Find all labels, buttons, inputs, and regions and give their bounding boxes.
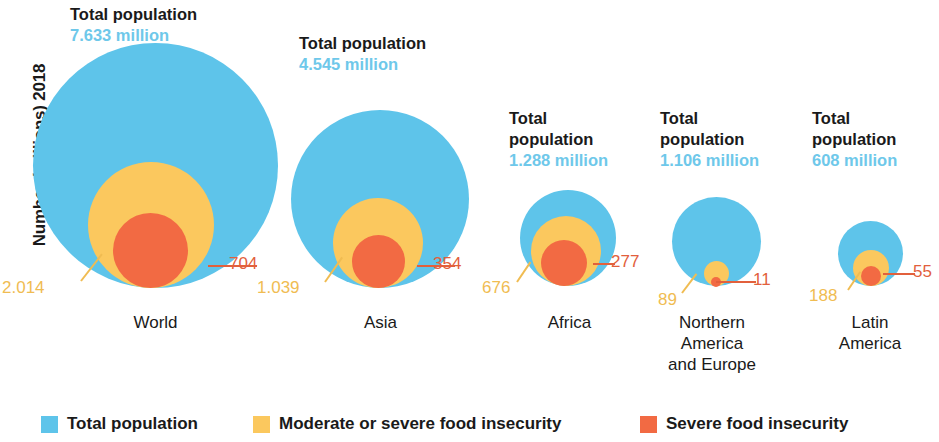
bubbles-africa	[520, 190, 620, 286]
total-population-caption: Total population	[509, 108, 619, 150]
callout-moderate-or-severe: 676	[482, 278, 510, 298]
total-population-value: 1.288 million	[509, 150, 619, 171]
bubbles-world	[33, 43, 283, 288]
bubble-severe[interactable]	[861, 266, 881, 286]
legend-label: Moderate or severe food insecurity	[279, 414, 561, 434]
bubble-chart-figure: Number (millions) 2018 Total population …	[0, 0, 939, 442]
leader-line-severe	[716, 281, 756, 283]
callout-severe: 704	[229, 254, 257, 274]
total-population-value: 1.106 million	[660, 150, 770, 171]
legend-label: Severe food insecurity	[666, 414, 848, 434]
legend-swatch-icon	[41, 416, 58, 433]
bubble-severe[interactable]	[541, 240, 587, 286]
legend-item-severe[interactable]: Severe food insecurity	[640, 414, 848, 434]
bubbles-latin-america	[838, 221, 918, 286]
legend-label: Total population	[67, 414, 198, 434]
group-header-africa: Total population 1.288 million	[509, 108, 619, 171]
category-label-world: World	[88, 312, 223, 333]
bubble-group-world: Total population 7.633 million 704 2.014…	[33, 0, 283, 400]
total-population-value: 608 million	[812, 150, 922, 171]
category-label-latin-america: Latin America	[814, 312, 926, 354]
callout-moderate-or-severe: 188	[809, 286, 837, 306]
callout-severe: 11	[753, 270, 771, 290]
total-population-caption: Total population	[660, 108, 770, 150]
group-header-latin-america: Total population 608 million	[812, 108, 922, 171]
legend-swatch-icon	[640, 416, 657, 433]
group-header-asia: Total population 4.545 million	[299, 33, 426, 75]
bubble-severe[interactable]	[352, 235, 405, 288]
category-label-northern-america-and-europe: Northern America and Europe	[656, 312, 768, 375]
group-header-world: Total population 7.633 million	[70, 4, 197, 46]
bubble-severe[interactable]	[113, 213, 188, 288]
total-population-caption: Total population	[70, 4, 197, 25]
total-population-value: 4.545 million	[299, 54, 426, 75]
callout-severe: 354	[433, 254, 461, 274]
total-population-caption: Total population	[299, 33, 426, 54]
category-label-africa: Africa	[502, 312, 637, 333]
bubble-group-northern-america-and-europe: Total population 1.106 million 11 89 Nor…	[660, 0, 785, 400]
bubble-group-latin-america: Total population 608 million 55 188 Lati…	[812, 0, 939, 400]
legend-item-total-population[interactable]: Total population	[41, 414, 198, 434]
legend: Total population Moderate or severe food…	[0, 408, 939, 442]
callout-severe: 277	[611, 252, 639, 272]
legend-item-moderate-or-severe[interactable]: Moderate or severe food insecurity	[253, 414, 561, 434]
callout-moderate-or-severe: 89	[658, 290, 677, 310]
category-label-asia: Asia	[313, 312, 448, 333]
leader-line-severe	[883, 273, 915, 275]
group-header-northern-america-and-europe: Total population 1.106 million	[660, 108, 770, 171]
callout-moderate-or-severe: 2.014	[2, 278, 45, 298]
total-population-caption: Total population	[812, 108, 922, 150]
callout-severe: 55	[913, 262, 932, 282]
bubble-group-africa: Total population 1.288 million 277 676 A…	[509, 0, 624, 400]
bubble-group-asia: Total population 4.545 million 354 1.039…	[291, 0, 476, 400]
legend-swatch-icon	[253, 416, 270, 433]
callout-moderate-or-severe: 1.039	[257, 278, 300, 298]
